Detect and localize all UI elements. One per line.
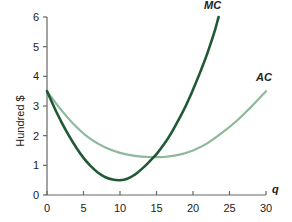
y-tick-label: 5 — [33, 41, 39, 53]
series-line-ac — [47, 91, 266, 157]
y-tick-label: 1 — [33, 159, 39, 171]
y-ticks: 0123456 — [33, 11, 47, 201]
x-tick-label: 30 — [260, 202, 272, 214]
y-axis-title: Hundred $ — [14, 95, 26, 146]
y-tick-label: 4 — [33, 70, 39, 82]
x-axis-title: q — [272, 183, 279, 195]
y-tick-label: 6 — [33, 11, 39, 23]
cost-curves-chart: 0123456 051015202530 Hundred $ q ACMC — [0, 0, 292, 222]
y-tick-label: 3 — [33, 100, 39, 112]
x-tick-label: 5 — [80, 202, 86, 214]
y-tick-label: 2 — [33, 130, 39, 142]
x-tick-label: 10 — [114, 202, 126, 214]
series-label-ac: AC — [255, 71, 273, 83]
x-tick-label: 20 — [187, 202, 199, 214]
series-group: ACMC — [47, 0, 273, 180]
x-tick-label: 15 — [150, 202, 162, 214]
y-tick-label: 0 — [33, 189, 39, 201]
axes — [47, 17, 266, 195]
series-label-mc: MC — [204, 0, 222, 11]
x-tick-label: 0 — [44, 202, 50, 214]
x-tick-label: 25 — [223, 202, 235, 214]
